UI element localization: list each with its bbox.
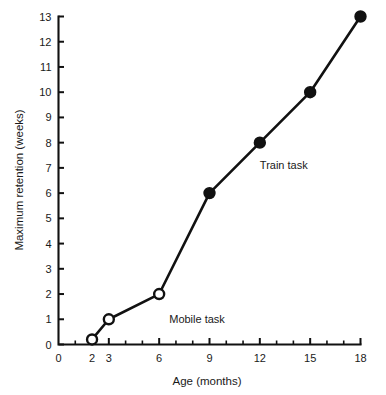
data-point <box>104 314 114 324</box>
y-tick-label: 10 <box>39 86 51 98</box>
x-tick-label: 9 <box>206 352 212 364</box>
line-chart-canvas: 012345678910111213 02369121518 Mobile ta… <box>0 0 386 395</box>
y-tick-label: 11 <box>40 61 51 73</box>
y-tick-label: 0 <box>45 339 51 351</box>
x-tick-label: 2 <box>89 352 95 364</box>
y-tick-label: 2 <box>45 288 51 300</box>
series-annotation: Train task <box>260 159 308 171</box>
y-tick-label: 12 <box>39 36 51 48</box>
axis-lines <box>59 17 361 345</box>
data-point <box>154 289 164 299</box>
series-annotation: Mobile task <box>169 313 225 325</box>
x-tick-label: 12 <box>254 352 266 364</box>
data-point <box>305 87 316 98</box>
y-tick-label: 3 <box>45 263 51 275</box>
data-point <box>204 188 215 199</box>
y-axis-title: Maximum retention (weeks) <box>13 109 25 250</box>
y-tick-label: 1 <box>45 313 51 325</box>
y-tick-label: 4 <box>45 238 51 250</box>
y-tick-label: 8 <box>45 137 51 149</box>
data-polyline <box>92 17 360 340</box>
chart-figure: 012345678910111213 02369121518 Mobile ta… <box>0 0 386 395</box>
series-annotations: Mobile taskTrain task <box>169 159 308 325</box>
axis-group <box>59 17 361 345</box>
y-tick-label: 5 <box>45 212 51 224</box>
y-tick-label: 13 <box>39 11 51 23</box>
y-tick-label: 7 <box>45 162 51 174</box>
x-tick-label: 18 <box>354 352 366 364</box>
x-tick-label: 15 <box>304 352 316 364</box>
data-series-group <box>87 11 366 344</box>
x-tick-label: 6 <box>156 352 162 364</box>
x-tick-label: 0 <box>55 352 61 364</box>
y-tick-label: 6 <box>45 187 51 199</box>
data-point <box>254 137 265 148</box>
data-point <box>87 334 97 344</box>
data-point <box>355 11 366 22</box>
x-axis-tick-labels: 02369121518 <box>55 352 366 364</box>
y-tick-label: 9 <box>45 111 51 123</box>
x-tick-label: 3 <box>106 352 112 364</box>
y-axis-tick-labels: 012345678910111213 <box>39 11 51 351</box>
x-axis-title: Age (months) <box>172 375 241 387</box>
